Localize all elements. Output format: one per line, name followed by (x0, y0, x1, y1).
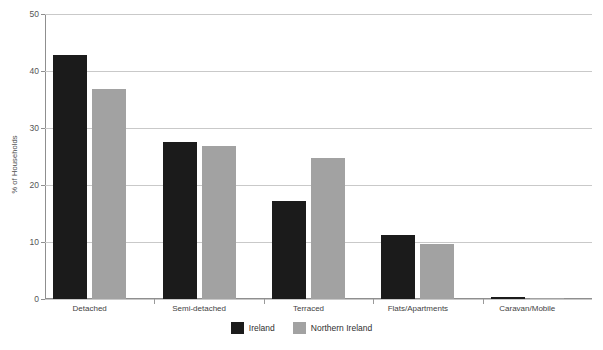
x-tick-label: Semi-detached (172, 304, 226, 313)
gridline (45, 71, 592, 72)
y-tick-mark (41, 128, 45, 129)
y-tick-mark (41, 71, 45, 72)
x-tick-label: Terraced (293, 304, 324, 313)
legend-item: Ireland (231, 322, 275, 334)
y-axis-title: % of Households (10, 105, 19, 225)
bar-terraced-northern-ireland (311, 158, 345, 299)
x-tick-label: Flats/Apartments (388, 304, 448, 313)
y-tick-label: 0 (34, 294, 39, 304)
group-separator (483, 299, 484, 304)
y-tick-mark (41, 185, 45, 186)
gridline (45, 299, 592, 300)
plot-area: 01020304050 (45, 14, 592, 299)
bar-detached-northern-ireland (92, 89, 126, 299)
bar-flats-apartments-northern-ireland (420, 244, 454, 299)
y-tick-mark (41, 299, 45, 300)
gridline (45, 14, 592, 15)
y-tick-mark (41, 14, 45, 15)
y-tick-label: 50 (30, 9, 39, 19)
x-tick-label: Detached (73, 304, 107, 313)
y-tick-label: 30 (30, 123, 39, 133)
bar-semi-detached-northern-ireland (202, 146, 236, 299)
group-separator (264, 299, 265, 304)
bar-caravan-mobile-northern-ireland (530, 298, 564, 299)
legend-swatch-icon (293, 322, 306, 334)
bar-terraced-ireland (272, 201, 306, 299)
y-tick-label: 40 (30, 66, 39, 76)
bar-chart: % of Households 01020304050 DetachedSemi… (0, 0, 603, 350)
y-tick-label: 20 (30, 180, 39, 190)
legend-item: Northern Ireland (293, 322, 372, 334)
bar-caravan-mobile-ireland (491, 297, 525, 299)
y-tick-mark (41, 242, 45, 243)
legend-label: Northern Ireland (311, 323, 372, 333)
bar-semi-detached-ireland (163, 142, 197, 299)
y-tick-label: 10 (30, 237, 39, 247)
bar-detached-ireland (53, 55, 87, 299)
legend: IrelandNorthern Ireland (0, 322, 603, 334)
legend-swatch-icon (231, 322, 244, 334)
y-axis-line (45, 14, 46, 299)
group-separator (373, 299, 374, 304)
x-tick-label: Caravan/Mobile (499, 304, 555, 313)
legend-label: Ireland (249, 323, 275, 333)
bar-flats-apartments-ireland (381, 235, 415, 299)
gridline (45, 128, 592, 129)
group-separator (154, 299, 155, 304)
